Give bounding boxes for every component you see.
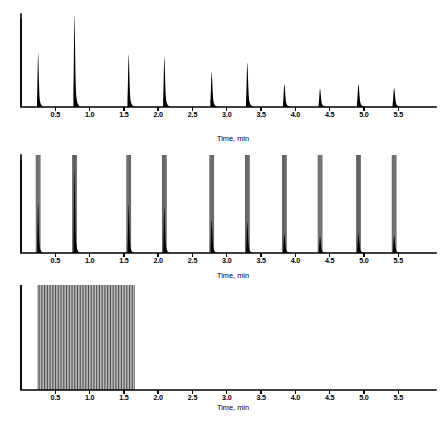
x-axis-tick-label-b-4: 2.5 xyxy=(188,256,198,265)
x-axis-tick-label-a-2: 1.5 xyxy=(119,110,129,119)
x-axis-tick-label-b-1: 1.0 xyxy=(85,256,95,265)
chromatogram-figure: 0.51.01.52.02.53.03.54.04.55.05.5 Time, … xyxy=(0,0,445,430)
x-axis-tick-label-a-9: 5.0 xyxy=(359,110,369,119)
x-axis-tick-label-b-8: 4.5 xyxy=(325,256,335,265)
panel-c-traces xyxy=(21,285,134,390)
peak-a-1 xyxy=(73,15,79,107)
x-axis-tick-label-a-3: 2.0 xyxy=(153,110,163,119)
x-axis-tick-label-b-9: 5.0 xyxy=(359,256,369,265)
x-axis-tick-label-c-2: 1.5 xyxy=(119,393,129,402)
peak-a-9 xyxy=(393,88,401,107)
panel-a-axis-line xyxy=(21,14,436,107)
panel-a-ticks: 0.51.01.52.02.53.03.54.04.55.05.5 xyxy=(51,107,404,119)
panel-c-plot: 0.51.01.52.02.53.03.54.04.55.05.5 Time, … xyxy=(0,285,445,430)
x-axis-tick-label-a-6: 3.5 xyxy=(256,110,266,119)
panel-b-axes xyxy=(21,155,436,253)
x-axis-tick-label-c-10: 5.5 xyxy=(394,393,404,402)
peak-a-8 xyxy=(357,84,365,107)
panel-b-traces xyxy=(21,155,400,253)
panel-a-x-axis-label: Time, min xyxy=(217,134,249,143)
panel-a-traces xyxy=(21,15,401,107)
x-axis-tick-label-b-6: 3.5 xyxy=(256,256,266,265)
chromatogram-panel-b: 0.51.01.52.02.53.03.54.04.55.05.5 Time, … xyxy=(0,145,445,285)
x-axis-tick-label-c-9: 5.0 xyxy=(359,393,369,402)
x-axis-tick-label-c-5: 3.0 xyxy=(222,393,232,402)
x-axis-tick-label-a-7: 4.0 xyxy=(291,110,301,119)
panel-b-ticks: 0.51.01.52.02.53.03.54.04.55.05.5 xyxy=(51,253,404,265)
panel-c-axes xyxy=(21,285,436,390)
x-axis-tick-label-c-7: 4.0 xyxy=(291,393,301,402)
x-axis-tick-label-b-3: 2.0 xyxy=(153,256,163,265)
x-axis-tick-label-b-10: 5.5 xyxy=(394,256,404,265)
x-axis-tick-label-c-4: 2.5 xyxy=(188,393,198,402)
chromatogram-panel-c: 0.51.01.52.02.53.03.54.04.55.05.5 Time, … xyxy=(0,285,445,430)
x-axis-tick-label-c-6: 3.5 xyxy=(256,393,266,402)
panel-a-plot: 0.51.01.52.02.53.03.54.04.55.05.5 Time, … xyxy=(0,0,445,145)
x-axis-tick-label-a-10: 5.5 xyxy=(394,110,404,119)
x-axis-tick-label-b-0: 0.5 xyxy=(51,256,61,265)
peak-a-4 xyxy=(210,72,217,107)
peak-a-2 xyxy=(127,55,134,107)
peak-a-5 xyxy=(246,63,253,107)
x-axis-tick-label-a-1: 1.0 xyxy=(85,110,95,119)
peak-a-3 xyxy=(163,57,170,107)
x-axis-tick-label-b-5: 3.0 xyxy=(222,256,232,265)
panel-b-plot: 0.51.01.52.02.53.03.54.04.55.05.5 Time, … xyxy=(0,145,445,285)
x-axis-tick-label-c-8: 4.5 xyxy=(325,393,335,402)
peak-a-0 xyxy=(37,54,43,107)
x-axis-tick-label-b-2: 1.5 xyxy=(119,256,129,265)
panel-c-axis-line xyxy=(21,285,436,390)
panel-c-x-axis-label: Time, min xyxy=(217,403,249,412)
x-axis-tick-label-a-4: 2.5 xyxy=(188,110,198,119)
peak-a-6 xyxy=(283,84,291,107)
peak-a-7 xyxy=(319,89,327,107)
x-axis-tick-label-a-0: 0.5 xyxy=(51,110,61,119)
x-axis-tick-label-a-8: 4.5 xyxy=(325,110,335,119)
x-axis-tick-label-c-1: 1.0 xyxy=(85,393,95,402)
x-axis-tick-label-a-5: 3.0 xyxy=(222,110,232,119)
peak-b-9 xyxy=(393,236,401,253)
panel-b-axis-line xyxy=(21,155,436,253)
panel-a-axes xyxy=(21,14,436,107)
x-axis-tick-label-b-7: 4.0 xyxy=(291,256,301,265)
x-axis-tick-label-c-0: 0.5 xyxy=(51,393,61,402)
peak-b-8 xyxy=(357,234,365,253)
panel-b-x-axis-label: Time, min xyxy=(217,271,249,280)
panel-c-ticks: 0.51.01.52.02.53.03.54.04.55.05.5 xyxy=(51,390,404,402)
x-axis-tick-label-c-3: 2.0 xyxy=(153,393,163,402)
chromatogram-panel-a: 0.51.01.52.02.53.03.54.04.55.05.5 Time, … xyxy=(0,0,445,145)
